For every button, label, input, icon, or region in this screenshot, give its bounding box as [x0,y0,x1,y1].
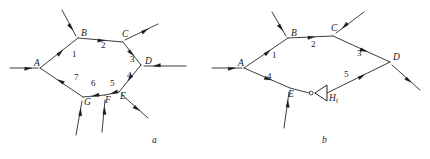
panel-b-edges: 12345 [244,36,390,93]
edge-5-label: 5 [110,78,115,88]
signal-flow-graph-svg: 1234567ABCDEFGa12345HfABCDEb [0,0,430,159]
output-arrow-E-arrowhead [133,105,140,110]
inverter-label-H: Hf [328,93,338,104]
panel-b: 12345HfABCDEb [212,12,420,145]
vertex-label-D: D [144,56,152,66]
vertex-label-A: A [237,58,244,68]
panel-caption-a: a [152,135,157,145]
vertex-label-E: E [119,91,126,101]
edge-4-label: 4 [127,70,132,80]
input-arrow-B-line [62,10,76,36]
panel-a-edges: 1234567 [40,38,141,97]
edge-5-arrowhead [358,74,365,79]
input-arrow-E-arrowhead [286,100,289,107]
edge-5-label: 5 [344,69,349,79]
edge-3-label: 3 [130,54,135,64]
edge-3-label: 3 [357,48,362,58]
panel-a-external-arrows [10,10,186,135]
vertex-label-B: B [291,28,297,38]
edge-1-label: 1 [272,50,277,60]
edge-6-label: 6 [91,78,96,88]
panel-a: 1234567ABCDEFGa [10,10,186,145]
vertex-label-C: C [122,29,129,39]
panel-b-external-arrows [212,12,420,128]
input-arrow-G-arrowhead [79,108,82,116]
inverter-label-subscript: f [336,98,338,104]
figure-container: 1234567ABCDEFGa12345HfABCDEb [0,0,430,159]
panel-b-vertex-labels: ABCDE [237,23,400,99]
edge-2-label: 2 [311,39,316,49]
output-arrow-C-arrowhead [141,29,148,34]
input-arrow-B-arrowhead [277,24,283,31]
vertex-label-C: C [331,23,338,33]
vertex-label-G: G [84,97,91,107]
edge-1-label: 1 [72,49,77,59]
input-arrow-B-arrowhead [67,24,73,31]
input-arrow-C-line [336,12,364,33]
edge-7-label: 7 [74,72,79,82]
vertex-label-D: D [392,52,400,62]
input-arrow-G-line [76,101,82,135]
edge-6-arrowhead [92,93,99,96]
vertex-label-B: B [81,28,87,38]
inverter-Hf: Hf [290,85,338,104]
edge-4-label: 4 [267,71,272,81]
output-arrow-D-arrowhead [405,77,412,82]
vertex-label-E: E [287,89,294,99]
edge-5-arrowhead [111,90,118,94]
panel-a-vertex-labels: ABCDEFG [33,28,152,107]
edge-2-label: 2 [101,40,106,50]
inverter-bubble [309,91,313,95]
output-arrow-D-line [392,65,420,90]
input-arrow-F-arrowhead [103,107,106,114]
panel-caption-b: b [322,135,327,145]
edge-1-arrowhead [264,50,270,56]
inverter-triangle [315,85,327,101]
edge-1-arrowhead [57,50,63,56]
input-arrow-B-line [272,12,286,36]
vertex-label-A: A [33,58,40,68]
input-arrow-C-arrowhead [342,22,348,28]
vertex-label-F: F [104,95,111,105]
